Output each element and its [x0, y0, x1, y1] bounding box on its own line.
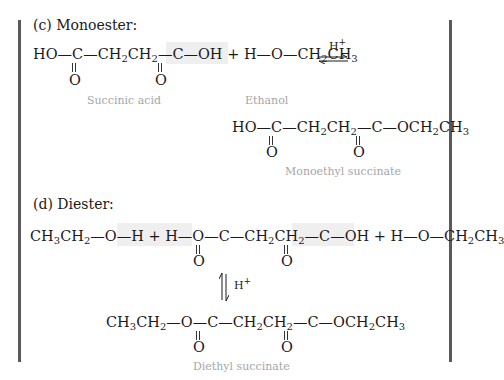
double-bond: [158, 63, 162, 72]
right-border-bar: [449, 20, 452, 362]
left-border-bar: [18, 20, 21, 362]
ethanol-label: Ethanol: [245, 94, 288, 107]
catalyst-label: H+: [234, 279, 251, 292]
diethyl-succinate-formula: CH3CH2—O—C—CH2CH2—C—OCH2CH3: [106, 313, 405, 331]
plus-sign: +: [227, 46, 239, 62]
section-d-heading: (d) Diester:: [33, 196, 114, 212]
carbonyl-oxygen: O: [193, 340, 205, 354]
monoethyl-succinate-formula: HO—C—CH2CH2—C—OCH2CH3: [232, 118, 469, 136]
diethyl-succinate-label: Diethyl succinate: [193, 360, 290, 373]
equilibrium-arrow-icon: [317, 54, 349, 64]
carbonyl-oxygen: O: [281, 254, 293, 268]
section-c-heading: (c) Monoester:: [33, 17, 137, 33]
catalyst-label: H+: [329, 40, 346, 53]
carbonyl-oxygen: O: [193, 254, 205, 268]
monoethyl-succinate-label: Monoethyl succinate: [285, 165, 401, 178]
carbonyl-oxygen: O: [266, 145, 278, 159]
carbonyl-oxygen: O: [155, 73, 167, 87]
succinic-acid-formula: HO—C—CH2CH2—C—OH + H—O—CH2CH3: [33, 45, 358, 63]
diester-reactants-formula: CH3CH2—O—H + H—O—C—CH2CH2—C—OH + H—O—CH2…: [30, 227, 504, 245]
carbonyl-oxygen: O: [353, 145, 365, 159]
carbonyl-oxygen: O: [69, 73, 81, 87]
succinic-acid-label: Succinic acid: [87, 94, 161, 107]
vertical-equilibrium-arrow-icon: [219, 272, 229, 302]
double-bond: [72, 63, 76, 72]
carbonyl-oxygen: O: [281, 340, 293, 354]
